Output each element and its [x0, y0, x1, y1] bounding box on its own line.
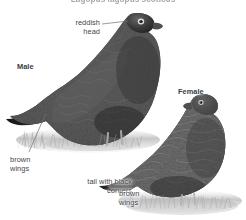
label-brown-wings-left-line2: wings — [10, 165, 54, 174]
label-reddish-head-line2: head — [48, 28, 100, 37]
label-brown-wings-right: brown wings — [119, 190, 163, 207]
label-female: Female — [178, 88, 204, 97]
label-male: Male — [17, 63, 34, 72]
illustration-plate: Lagopus lagopus scoticus reddish head Ma… — [0, 0, 246, 220]
label-reddish-head: reddish head — [48, 19, 100, 36]
label-brown-wings-right-line2: wings — [119, 199, 163, 208]
label-brown-wings-left: brown wings — [10, 156, 54, 173]
